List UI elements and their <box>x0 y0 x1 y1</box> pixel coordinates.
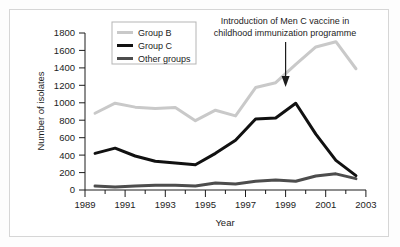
annotation-line-2: childhood immunization programme <box>214 28 357 38</box>
legend[interactable]: Group B Group C Other groups <box>112 22 196 64</box>
line-chart: 0 200 400 600 800 1000 1200 1400 1600 18… <box>0 0 400 247</box>
y-tick-label: 400 <box>59 150 75 161</box>
annotation-arrow-head <box>282 76 290 87</box>
y-tick-label: 0 <box>70 184 75 195</box>
y-axis-ticks <box>79 33 85 190</box>
y-axis-tick-labels: 0 200 400 600 800 1000 1200 1400 1600 18… <box>54 27 75 195</box>
y-tick-label: 800 <box>59 115 75 126</box>
y-tick-label: 1400 <box>54 62 75 73</box>
x-axis-title: Year <box>215 217 234 228</box>
x-tick-label: 2003 <box>355 199 376 210</box>
y-tick-label: 1000 <box>54 97 75 108</box>
x-tick-label: 1989 <box>74 199 95 210</box>
x-axis-ticks <box>85 190 366 197</box>
x-tick-label: 1999 <box>275 199 296 210</box>
y-tick-label: 200 <box>59 167 75 178</box>
series-line-other-groups <box>95 174 356 187</box>
y-tick-label: 1800 <box>54 27 75 38</box>
x-tick-label: 1995 <box>195 199 216 210</box>
x-tick-label: 1993 <box>155 199 176 210</box>
x-axis-tick-labels: 1989 1991 1993 1995 1997 1999 2001 2003 <box>74 199 376 210</box>
y-tick-label: 1200 <box>54 80 75 91</box>
x-tick-label: 1991 <box>115 199 136 210</box>
legend-label-other-groups: Other groups <box>138 54 191 64</box>
y-tick-label: 1600 <box>54 45 75 56</box>
y-axis-title: Number of isolates <box>35 71 46 150</box>
legend-label-group-c: Group C <box>138 41 173 51</box>
y-tick-label: 600 <box>59 132 75 143</box>
annotation-vaccine-introduction: Introduction of Men C vaccine in childho… <box>214 16 357 87</box>
annotation-line-1: Introduction of Men C vaccine in <box>221 16 350 26</box>
legend-label-group-b: Group B <box>138 28 172 38</box>
x-tick-label: 1997 <box>235 199 256 210</box>
figure-container: 0 200 400 600 800 1000 1200 1400 1600 18… <box>0 0 400 247</box>
x-tick-label: 2001 <box>315 199 336 210</box>
